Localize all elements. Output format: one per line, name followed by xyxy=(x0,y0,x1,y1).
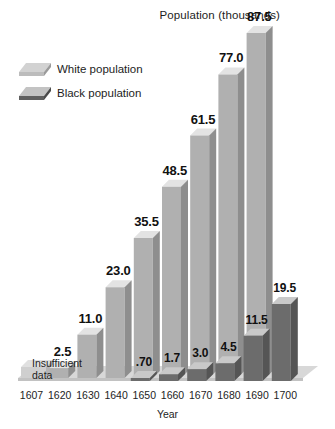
x-tick-1680: 1680 xyxy=(213,390,245,401)
x-tick-1620: 1620 xyxy=(44,390,76,401)
black-bar-1680 xyxy=(215,356,241,381)
black-value-label-1670: 3.0 xyxy=(192,347,208,359)
x-tick-1700: 1700 xyxy=(269,390,301,401)
black-bar-1690 xyxy=(244,329,270,381)
white-value-label-1640: 23.0 xyxy=(106,264,131,277)
x-tick-1607: 1607 xyxy=(16,390,48,401)
x-tick-1640: 1640 xyxy=(100,390,132,401)
insufficient-data-line1: Insufficient xyxy=(32,358,82,370)
x-axis-title: Year xyxy=(0,408,335,420)
white-value-label-1630: 11.0 xyxy=(78,312,102,325)
white-value-label-1650: 35.5 xyxy=(134,215,159,228)
x-tick-1660: 1660 xyxy=(157,390,189,401)
white-value-label-1620: 2.5 xyxy=(54,345,71,358)
x-tick-1650: 1650 xyxy=(128,390,160,401)
insufficient-data-note: Insufficient data xyxy=(32,358,82,381)
x-tick-1670: 1670 xyxy=(185,390,217,401)
white-bar-1660 xyxy=(162,180,188,378)
white-value-label-1670: 61.5 xyxy=(191,113,216,126)
white-bar-1680 xyxy=(218,67,244,378)
x-tick-1630: 1630 xyxy=(72,390,104,401)
x-tick-1690: 1690 xyxy=(241,390,273,401)
white-value-label-1690: 87.5 xyxy=(247,10,272,23)
black-bar-1700 xyxy=(272,297,298,381)
black-value-label-1680: 4.5 xyxy=(220,341,236,353)
white-value-label-1680: 77.0 xyxy=(219,51,244,64)
black-value-label-1650: .70 xyxy=(136,356,152,368)
black-value-label-1690: 11.5 xyxy=(246,314,268,326)
insufficient-data-line2: data xyxy=(32,370,82,382)
population-bar-chart: Population (thousands) White population xyxy=(0,0,335,429)
white-bar-1670 xyxy=(190,129,216,378)
black-value-label-1700: 19.5 xyxy=(273,282,296,294)
white-bar-1640 xyxy=(106,280,132,378)
white-value-label-1660: 48.5 xyxy=(163,164,188,177)
black-value-label-1660: 1.7 xyxy=(164,352,180,364)
